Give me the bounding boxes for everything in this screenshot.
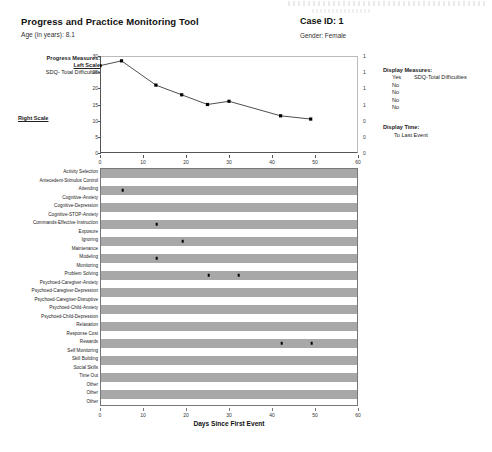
display-measure-row[interactable]: No bbox=[383, 89, 488, 95]
age-label: Age (in years): 8.1 bbox=[21, 31, 75, 38]
practice-category-label: Antecedent-Stimulus Control bbox=[18, 177, 98, 186]
display-measure-row[interactable]: No bbox=[383, 97, 488, 103]
line-chart-y-tick-right: 1 bbox=[363, 85, 376, 91]
practice-chart-row bbox=[101, 339, 357, 348]
gender-label: Gender: Female bbox=[300, 32, 346, 39]
line-chart-y-tick-mark bbox=[98, 137, 101, 138]
display-measure-name bbox=[414, 104, 488, 110]
display-measure-toggle[interactable]: No bbox=[383, 97, 414, 103]
practice-chart-row bbox=[101, 348, 357, 357]
line-chart-x-tick-mark bbox=[100, 155, 101, 158]
practice-category-label: Commands-Effective Instruction bbox=[18, 219, 98, 228]
practice-chart-row bbox=[101, 263, 357, 272]
practice-chart-data-point bbox=[156, 223, 159, 226]
line-chart-data-point bbox=[120, 59, 123, 62]
line-chart-x-tick: 20 bbox=[183, 159, 189, 165]
practice-category-label: Other bbox=[18, 389, 98, 398]
line-chart-y-tick-left: 5 bbox=[85, 134, 98, 140]
line-chart-y-tick-right: 0 bbox=[363, 150, 376, 156]
display-measure-name bbox=[414, 82, 488, 88]
practice-category-label: Time Out bbox=[18, 372, 98, 381]
practice-chart-data-point bbox=[121, 189, 124, 192]
practice-category-label: Response Cost bbox=[18, 330, 98, 339]
line-chart-y-tick-mark bbox=[98, 105, 101, 106]
practice-chart-row bbox=[101, 390, 357, 399]
practice-chart-x-tick: 10 bbox=[140, 412, 146, 418]
case-id-label: Case ID: 1 bbox=[300, 16, 344, 26]
line-chart-y-tick-left: 25 bbox=[85, 69, 98, 75]
line-chart-x-tick: 0 bbox=[99, 159, 102, 165]
practice-chart-x-tick-mark bbox=[229, 408, 230, 411]
display-measure-row[interactable]: No bbox=[383, 82, 488, 88]
display-time-title: Display Time: bbox=[383, 124, 488, 130]
practice-category-label: Monitoring bbox=[18, 262, 98, 271]
practice-chart-data-point bbox=[207, 274, 210, 277]
line-chart-y-tick-left: 15 bbox=[85, 102, 98, 108]
practice-chart-x-tick-mark bbox=[315, 408, 316, 411]
practice-chart-row bbox=[101, 373, 357, 382]
display-measure-name: SDQ-Total Difficulties bbox=[414, 74, 488, 80]
practice-chart-row bbox=[101, 356, 357, 365]
display-measure-toggle[interactable]: No bbox=[383, 104, 414, 110]
practice-chart-row bbox=[101, 271, 357, 280]
practice-chart-row bbox=[101, 297, 357, 306]
practice-category-label: Cognitive-STOP-Anxiety bbox=[18, 211, 98, 220]
scan-artifact-secondary bbox=[312, 9, 372, 13]
display-measure-toggle[interactable]: Yes bbox=[383, 74, 414, 80]
practice-category-label: Cognitive-Anxiety bbox=[18, 194, 98, 203]
line-chart-y-tick-right: 1 bbox=[363, 102, 376, 108]
practice-chart-plot-area bbox=[100, 168, 358, 406]
practice-category-label: Psychoed-Caregiver-Anxiety bbox=[18, 279, 98, 288]
practice-category-label: Psychoed-Caregiver-Disruptive bbox=[18, 296, 98, 305]
line-chart-y-axis-right: 0001111 bbox=[359, 52, 373, 157]
practice-chart-row bbox=[101, 331, 357, 340]
practice-chart-x-tick: 60 bbox=[355, 412, 361, 418]
practice-category-label: Rewards bbox=[18, 338, 98, 347]
practice-chart-row bbox=[101, 322, 357, 331]
display-measure-name bbox=[414, 97, 488, 103]
display-measures-title: Display Measures: bbox=[383, 67, 488, 73]
display-measures-rows: YesSDQ-Total DifficultiesNoNoNoNo bbox=[383, 74, 488, 110]
practice-chart-data-point bbox=[181, 240, 184, 243]
practice-category-label: Other bbox=[18, 398, 98, 407]
practice-chart-row bbox=[101, 186, 357, 195]
display-measure-row[interactable]: YesSDQ-Total Difficulties bbox=[383, 74, 488, 80]
practice-chart-x-tick: 20 bbox=[183, 412, 189, 418]
practice-category-label: Modeling bbox=[18, 253, 98, 262]
practice-chart-row bbox=[101, 169, 357, 178]
display-measure-name bbox=[414, 89, 488, 95]
line-chart-x-tick: 50 bbox=[312, 159, 318, 165]
practice-chart-row bbox=[101, 288, 357, 297]
line-chart-y-tick-mark bbox=[98, 56, 101, 57]
practice-chart-x-axis-title: Days Since First Event bbox=[100, 420, 358, 427]
practice-chart-row bbox=[101, 220, 357, 229]
practice-chart-data-point bbox=[237, 274, 240, 277]
practice-chart-x-tick: 50 bbox=[312, 412, 318, 418]
practice-chart-row bbox=[101, 212, 357, 221]
line-chart-y-tick-left: 20 bbox=[85, 85, 98, 91]
line-chart-x-tick-mark bbox=[358, 155, 359, 158]
line-chart-data-point bbox=[206, 103, 209, 106]
practice-category-label: Self Monitoring bbox=[18, 347, 98, 356]
line-chart-x-tick: 40 bbox=[269, 159, 275, 165]
practice-category-label: Activity Selection bbox=[18, 168, 98, 177]
progress-line-chart: 051015202530 0001111 0102030405060 bbox=[100, 56, 358, 153]
practice-chart-x-axis: 0102030405060 bbox=[100, 408, 358, 420]
practice-category-label: Exposure bbox=[18, 228, 98, 237]
display-measure-row[interactable]: No bbox=[383, 104, 488, 110]
line-chart-x-tick-mark bbox=[186, 155, 187, 158]
display-time-panel: Display Time: To Last Event bbox=[383, 124, 488, 138]
practice-chart-row bbox=[101, 382, 357, 391]
line-chart-series bbox=[100, 56, 358, 153]
page-title: Progress and Practice Monitoring Tool bbox=[21, 16, 199, 27]
display-measure-toggle[interactable]: No bbox=[383, 82, 414, 88]
display-measure-toggle[interactable]: No bbox=[383, 89, 414, 95]
practice-chart-row bbox=[101, 195, 357, 204]
line-chart-y-tick-mark bbox=[98, 88, 101, 89]
practice-chart-data-point bbox=[156, 257, 159, 260]
practice-chart-x-tick-mark bbox=[100, 408, 101, 411]
practice-chart-x-tick-mark bbox=[272, 408, 273, 411]
practice-chart-row bbox=[101, 246, 357, 255]
practice-chart-row bbox=[101, 305, 357, 314]
line-chart-x-axis: 0102030405060 bbox=[100, 155, 358, 167]
